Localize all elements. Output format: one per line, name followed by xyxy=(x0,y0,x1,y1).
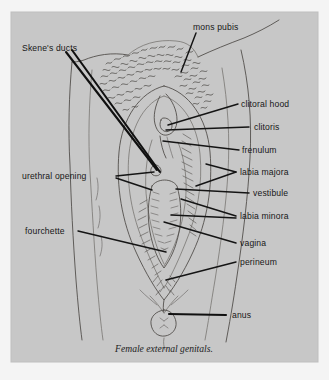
label-urethral-opening: urethral opening xyxy=(22,171,87,181)
anatomy-figure: Skene's ducts mons pubis clitoral hood c… xyxy=(0,0,329,380)
label-anus: anus xyxy=(232,310,251,320)
label-clitoral-hood: clitoral hood xyxy=(241,99,289,109)
panel-tone xyxy=(11,12,318,362)
label-labia-majora: labia majora xyxy=(240,167,289,177)
figure-caption: Female external genitals. xyxy=(114,343,213,354)
label-fourchette: fourchette xyxy=(25,226,65,236)
leader-anus xyxy=(169,314,226,315)
label-skenes-ducts: Skene's ducts xyxy=(22,43,77,53)
figure-container: Skene's ducts mons pubis clitoral hood c… xyxy=(0,0,329,380)
label-clitoris: clitoris xyxy=(254,122,280,132)
label-perineum: perineum xyxy=(240,257,277,267)
label-vagina: vagina xyxy=(240,238,266,248)
label-labia-minora: labia minora xyxy=(240,211,289,221)
label-mons-pubis: mons pubis xyxy=(193,22,238,32)
label-frenulum: frenulum xyxy=(242,145,277,155)
label-vestibule: vestibule xyxy=(253,188,288,198)
